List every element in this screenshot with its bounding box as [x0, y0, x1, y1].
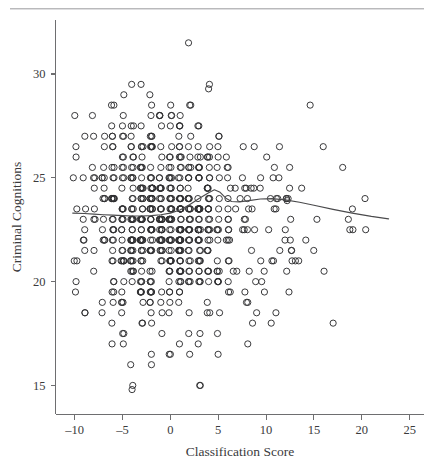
data-point: [206, 164, 212, 170]
data-point: [257, 175, 263, 181]
data-point: [266, 227, 272, 233]
data-point: [257, 185, 263, 191]
data-point: [270, 175, 276, 181]
data-point: [224, 175, 230, 181]
data-point: [147, 92, 153, 98]
data-point: [82, 310, 88, 316]
data-point: [349, 206, 355, 212]
data-point: [167, 289, 173, 295]
data-point: [129, 279, 135, 285]
data-point: [73, 154, 79, 160]
data-point: [99, 299, 105, 305]
x-tick-label: 15: [308, 423, 321, 437]
data-point: [205, 86, 211, 92]
y-tick-label: 30: [33, 67, 46, 81]
data-point: [321, 268, 327, 274]
data-point: [248, 247, 254, 253]
data-point: [268, 320, 274, 326]
figure-container: 15202530 –10–50510152025 Criminal Cognit…: [0, 0, 434, 471]
data-point: [271, 164, 277, 170]
data-point: [99, 310, 105, 316]
data-point: [167, 123, 173, 129]
data-point: [169, 144, 175, 150]
data-point: [158, 299, 164, 305]
data-point: [176, 341, 182, 347]
x-tick-label: 0: [167, 423, 173, 437]
data-point: [80, 216, 86, 222]
x-tick-label: 25: [403, 423, 416, 437]
data-point: [314, 216, 320, 222]
data-point: [195, 144, 201, 150]
data-point: [129, 164, 135, 170]
data-point: [177, 289, 183, 295]
x-tick-label: 10: [260, 423, 273, 437]
data-point: [80, 175, 86, 181]
data-point: [101, 164, 107, 170]
data-point: [110, 279, 116, 285]
data-point: [89, 164, 95, 170]
data-point: [187, 154, 193, 160]
data-point: [185, 175, 191, 181]
data-point: [109, 144, 115, 150]
data-point: [216, 133, 222, 139]
data-point: [73, 144, 79, 150]
data-point: [176, 133, 182, 139]
x-tick-label: –5: [115, 423, 129, 437]
data-point: [330, 320, 336, 326]
data-point: [139, 154, 145, 160]
data-point: [70, 175, 76, 181]
data-point: [138, 227, 144, 233]
data-point: [286, 185, 292, 191]
y-tick-label: 15: [33, 379, 46, 393]
data-point: [177, 112, 183, 118]
data-point: [216, 195, 222, 201]
data-point: [264, 154, 270, 160]
data-point: [148, 351, 154, 357]
data-point: [149, 102, 155, 108]
data-point: [129, 81, 135, 87]
data-point: [166, 310, 172, 316]
data-point: [109, 320, 115, 326]
data-point: [216, 206, 222, 212]
data-point: [101, 144, 107, 150]
data-point: [176, 299, 182, 305]
data-point: [139, 175, 145, 181]
data-point: [119, 185, 125, 191]
data-point: [246, 268, 252, 274]
data-point: [242, 289, 248, 295]
data-point: [101, 185, 107, 191]
data-point: [227, 185, 233, 191]
data-point: [99, 227, 105, 233]
data-point: [91, 185, 97, 191]
y-axis: 15202530: [33, 20, 56, 414]
data-point: [140, 206, 146, 212]
data-point: [159, 289, 165, 295]
data-point: [119, 123, 125, 129]
data-point: [149, 320, 155, 326]
data-point: [282, 227, 288, 233]
data-point: [138, 247, 144, 253]
data-point: [237, 195, 243, 201]
loess-smoother-line: [73, 190, 389, 219]
data-point: [120, 112, 126, 118]
data-point: [205, 206, 211, 212]
data-point: [158, 164, 164, 170]
data-point: [195, 341, 201, 347]
data-point: [276, 175, 282, 181]
data-point: [225, 216, 231, 222]
data-point: [130, 164, 136, 170]
data-point: [273, 310, 279, 316]
data-point: [186, 310, 192, 316]
data-point: [261, 289, 267, 295]
data-point: [233, 206, 239, 212]
data-point: [251, 144, 257, 150]
data-point: [223, 154, 229, 160]
data-point: [196, 268, 202, 274]
data-point: [205, 227, 211, 233]
data-point: [91, 206, 97, 212]
data-point: [119, 310, 125, 316]
data-point: [239, 175, 245, 181]
data-point: [129, 227, 135, 233]
data-point: [148, 310, 154, 316]
y-tick-label: 20: [33, 275, 46, 289]
